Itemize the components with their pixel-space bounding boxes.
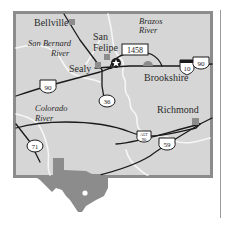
map-svg: 1458 10 90 90 36 ALT 90 59 71 Bellville …: [0, 0, 227, 225]
svg-text:59: 59: [164, 141, 172, 149]
town-marker-richmond[interactable]: [192, 118, 199, 125]
page-divider-rule: [220, 10, 221, 218]
svg-text:1458: 1458: [127, 46, 143, 55]
town-marker-bellville[interactable]: [69, 19, 75, 25]
town-marker-san-felipe[interactable]: [104, 54, 110, 60]
route-shield-sh-36: 36: [99, 95, 115, 107]
river-label-colorado-1: Colorado: [35, 103, 68, 113]
town-label-richmond: Richmond: [157, 104, 199, 115]
route-shield-us-90-east: 90: [193, 57, 209, 69]
river-label-colorado-2: River: [34, 113, 54, 123]
town-label-san: San: [93, 31, 108, 42]
town-marker-sealy[interactable]: [95, 62, 101, 68]
route-shield-us-90-west: 90: [40, 80, 56, 93]
town-label-brookshire: Brookshire: [144, 72, 189, 83]
svg-text:90: 90: [198, 60, 206, 68]
route-shield-sh-71: 71: [27, 140, 43, 152]
town-label-sealy: Sealy: [69, 63, 91, 74]
town-label-bellville: Bellville: [34, 17, 69, 28]
svg-text:90: 90: [45, 84, 53, 92]
river-label-san-bernard-1: San Bernard: [28, 38, 72, 48]
route-shield-1458: 1458: [122, 44, 148, 55]
svg-text:71: 71: [32, 143, 39, 150]
location-dot-icon: [82, 190, 87, 195]
svg-text:90: 90: [142, 137, 147, 142]
route-shield-us-59: 59: [159, 138, 175, 150]
area-map: 1458 10 90 90 36 ALT 90 59 71 Bellville …: [0, 0, 227, 225]
route-shield-alt-90: ALT 90: [137, 131, 151, 142]
svg-text:36: 36: [104, 98, 112, 106]
town-label-felipe: Felipe: [93, 42, 119, 53]
river-label-brazos-2: River: [138, 25, 158, 35]
river-label-san-bernard-2: River: [50, 48, 70, 58]
